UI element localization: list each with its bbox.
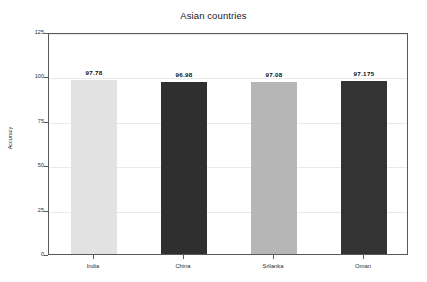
bar-value-label: 97.08 (251, 71, 298, 78)
bar-value-label: 97.78 (71, 69, 118, 76)
bar-value-label: 97.175 (341, 70, 388, 77)
x-axis-tick-label: Srilanka (228, 263, 318, 269)
x-axis-tick-label: India (48, 263, 138, 269)
chart-title: Asian countries (0, 10, 427, 21)
plot-area: 97.7896.9897.0897.175 (48, 33, 408, 255)
y-axis-tick-label: 50 (4, 162, 44, 168)
bar-slot[interactable]: 97.78 (71, 34, 118, 254)
x-axis-tick-mark (93, 255, 94, 259)
bar-slot[interactable]: 97.175 (341, 34, 388, 254)
y-axis-tick-label: 0 (4, 251, 44, 257)
bar-value-label: 96.98 (161, 71, 208, 78)
y-axis-tick-label: 125 (4, 29, 44, 35)
x-axis-tick-label: China (138, 263, 228, 269)
x-axis-tick-mark (183, 255, 184, 259)
bar-slot[interactable]: 97.08 (251, 34, 298, 254)
chart-figure: Asian countries Accuracy 0255075100125 9… (0, 0, 427, 282)
bar[interactable] (71, 80, 118, 254)
y-axis-tick-label: 25 (4, 207, 44, 213)
x-axis-tick-mark (363, 255, 364, 259)
bar[interactable] (341, 81, 388, 254)
bar-slot[interactable]: 96.98 (161, 34, 208, 254)
x-axis-tick-label: Oman (318, 263, 408, 269)
x-axis-tick-mark (273, 255, 274, 259)
y-axis-tick-label: 100 (4, 73, 44, 79)
bar[interactable] (161, 82, 208, 254)
y-axis-tick-label: 75 (4, 118, 44, 124)
y-axis-tick-mark (44, 255, 48, 256)
bar[interactable] (251, 82, 298, 254)
